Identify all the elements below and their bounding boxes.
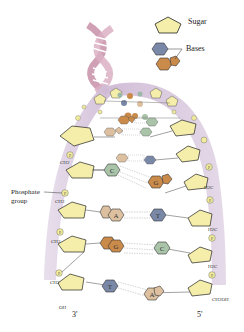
svg-text:A: A (149, 291, 154, 299)
h2c-label: H2C (208, 264, 217, 269)
legend-sugar-label: Sugar (188, 17, 207, 26)
svg-text:T: T (156, 212, 161, 220)
svg-text:G: G (113, 243, 118, 251)
base-pair-a-t: A T (100, 206, 188, 221)
dna-illustration: C G A T G C T A P P P P P P (0, 0, 244, 332)
svg-text:C: C (110, 167, 115, 175)
base-pair-c-g: C G (94, 164, 172, 188)
three-prime-end-label: 3' (72, 310, 77, 319)
ch2-label: CH2 (51, 239, 60, 244)
dna-structure-diagram: C G A T G C T A P P P P P P (0, 0, 244, 332)
phosphate-group-label-line2: group (11, 197, 27, 206)
phosphate-group-label-line1: Phosphate (11, 188, 40, 197)
ch2-label: CH2 (50, 280, 59, 285)
svg-text:T: T (108, 283, 113, 291)
h2c-label: H2C (204, 185, 213, 190)
ch2-label: CH2 (60, 160, 69, 165)
legend-bases-label: Bases (186, 44, 205, 53)
legend (152, 17, 182, 70)
double-helix-icon (88, 25, 112, 92)
svg-text:G: G (153, 179, 158, 187)
base-pair-g-c: G C (100, 237, 170, 254)
ch2oh-label: CH2OH (212, 297, 229, 302)
legend-sugar-icon (155, 17, 181, 33)
legend-purine-icon (156, 56, 180, 70)
five-prime-end-label: 5' (197, 310, 202, 319)
oh-label: OH (59, 305, 66, 310)
ch2-label: CH2 (55, 199, 64, 204)
svg-text:A: A (113, 212, 118, 220)
legend-pyrimidine-icon (152, 43, 168, 55)
svg-text:C: C (160, 245, 165, 253)
upper-base-pairs (104, 116, 158, 164)
base-pair-t-a: T A (102, 280, 164, 300)
h2c-label: H2C (208, 227, 217, 232)
